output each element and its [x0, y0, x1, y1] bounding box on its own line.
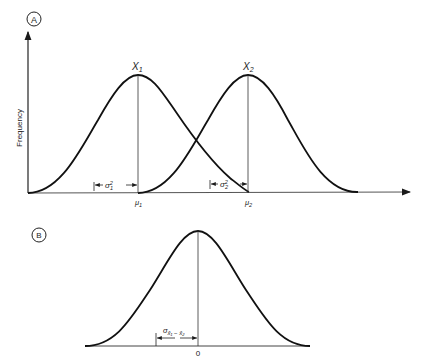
b-sigma-label: σx̄₁ − x̄₂: [163, 326, 185, 336]
panel-a: A Frequency X1 X2 σ21 σ22 μ1 μ2: [15, 12, 410, 208]
b-zero-label: 0: [196, 349, 201, 358]
sigma2-label: σ22: [220, 179, 228, 190]
mean2-label: μ2: [244, 198, 252, 208]
panel-b-label: B: [36, 231, 41, 240]
sigma1-label: σ21: [105, 180, 113, 191]
panel-a-label: A: [31, 15, 37, 25]
panel-b: B σx̄₁ − x̄₂ 0: [32, 228, 310, 358]
y-axis-label: Frequency: [15, 109, 24, 147]
curve-x1: [28, 75, 249, 193]
curve1-label: X1: [131, 61, 143, 73]
diagram: A Frequency X1 X2 σ21 σ22 μ1 μ2 B: [0, 0, 421, 361]
curve2-label: X2: [242, 61, 254, 73]
mean1-label: μ1: [134, 198, 142, 208]
curve-difference: [85, 231, 310, 346]
